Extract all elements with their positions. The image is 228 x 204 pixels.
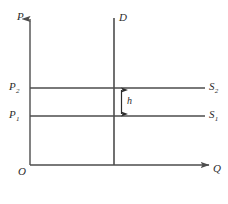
supply-curve-label-s1: S1 bbox=[209, 109, 218, 120]
origin-label: O bbox=[18, 166, 26, 177]
x-axis-label: Q bbox=[213, 163, 221, 174]
h-measure-label: h bbox=[127, 96, 132, 106]
supply-curve-base-s2: S bbox=[209, 80, 215, 92]
price-tick-sub-p1: 1 bbox=[16, 115, 20, 123]
price-tick-label-p2: P2 bbox=[9, 81, 19, 92]
supply-curve-label-s2: S2 bbox=[209, 81, 218, 92]
supply-curve-sub-s1: 1 bbox=[215, 115, 219, 123]
supply-demand-diagram: P Q O D P2 P1 S2 S1 h bbox=[0, 0, 228, 204]
y-axis-label: P bbox=[17, 11, 24, 22]
price-tick-label-p1: P1 bbox=[9, 109, 19, 120]
supply-curve-sub-s2: 2 bbox=[215, 87, 219, 95]
supply-curve-base-s1: S bbox=[209, 108, 215, 120]
diagram-canvas bbox=[0, 0, 228, 204]
demand-curve-label: D bbox=[119, 12, 127, 23]
price-tick-sub-p2: 2 bbox=[16, 87, 20, 95]
price-tick-base-p2: P bbox=[9, 80, 16, 92]
price-tick-base-p1: P bbox=[9, 108, 16, 120]
figure-caption bbox=[0, 192, 228, 204]
